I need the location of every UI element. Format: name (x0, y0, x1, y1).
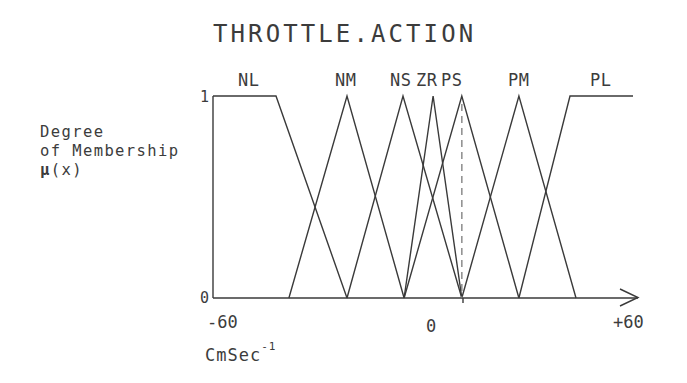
membership-functions (213, 96, 633, 298)
membership-function-pl (519, 96, 633, 298)
membership-function-ps (404, 96, 519, 298)
membership-plot (0, 0, 687, 383)
membership-function-nm (289, 96, 404, 298)
membership-function-ns (347, 96, 462, 298)
membership-function-nl (213, 96, 347, 298)
membership-function-pm (462, 96, 576, 298)
axes (213, 96, 638, 306)
